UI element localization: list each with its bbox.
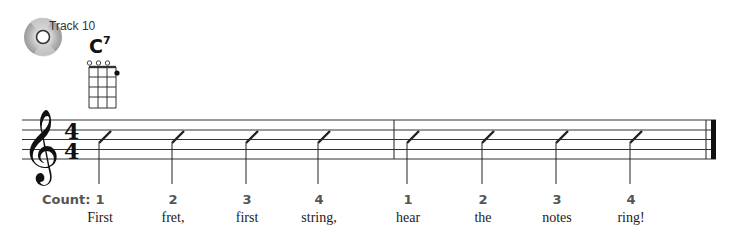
slash-note	[246, 131, 258, 184]
beat-number: 3	[232, 192, 262, 207]
lyric-word: ring!	[591, 210, 671, 226]
beat-number: 4	[616, 192, 646, 207]
slash-note	[172, 131, 184, 184]
chord-extension: 7	[103, 34, 111, 47]
beat-number: 2	[468, 192, 498, 207]
slash-note	[630, 131, 642, 184]
chord-root: C	[89, 35, 103, 57]
lyric-word: hear	[368, 210, 448, 226]
lyric-word: First	[60, 210, 140, 226]
slash-note	[407, 131, 419, 184]
slash-note	[318, 131, 330, 184]
open-string-marker	[87, 61, 91, 65]
track-label: Track 10	[49, 19, 95, 33]
open-string-marker	[105, 61, 109, 65]
lyric-word: string,	[279, 210, 359, 226]
beat-number: 2	[158, 192, 188, 207]
slash-note	[556, 131, 568, 184]
slash-note	[482, 131, 494, 184]
beat-number: 4	[304, 192, 334, 207]
lyric-word: fret,	[133, 210, 213, 226]
count-label: Count:	[42, 192, 90, 207]
staff-lines	[22, 120, 716, 159]
open-string-marker	[96, 61, 100, 65]
beat-number: 1	[85, 192, 115, 207]
final-barline-thick	[711, 120, 716, 159]
svg-text:4: 4	[64, 138, 79, 164]
time-signature: 4 4	[64, 118, 79, 164]
beat-number: 3	[542, 192, 572, 207]
beat-number: 1	[393, 192, 423, 207]
lyric-word: notes	[517, 210, 597, 226]
chord-name: C7	[89, 35, 111, 57]
chord-diagram	[87, 61, 119, 108]
lyric-word: first	[207, 210, 287, 226]
lyric-word: the	[443, 210, 523, 226]
treble-clef-icon: 𝄞	[22, 108, 60, 186]
finger-dot	[114, 70, 119, 75]
slash-note	[99, 131, 111, 184]
slash-notes	[99, 131, 642, 184]
